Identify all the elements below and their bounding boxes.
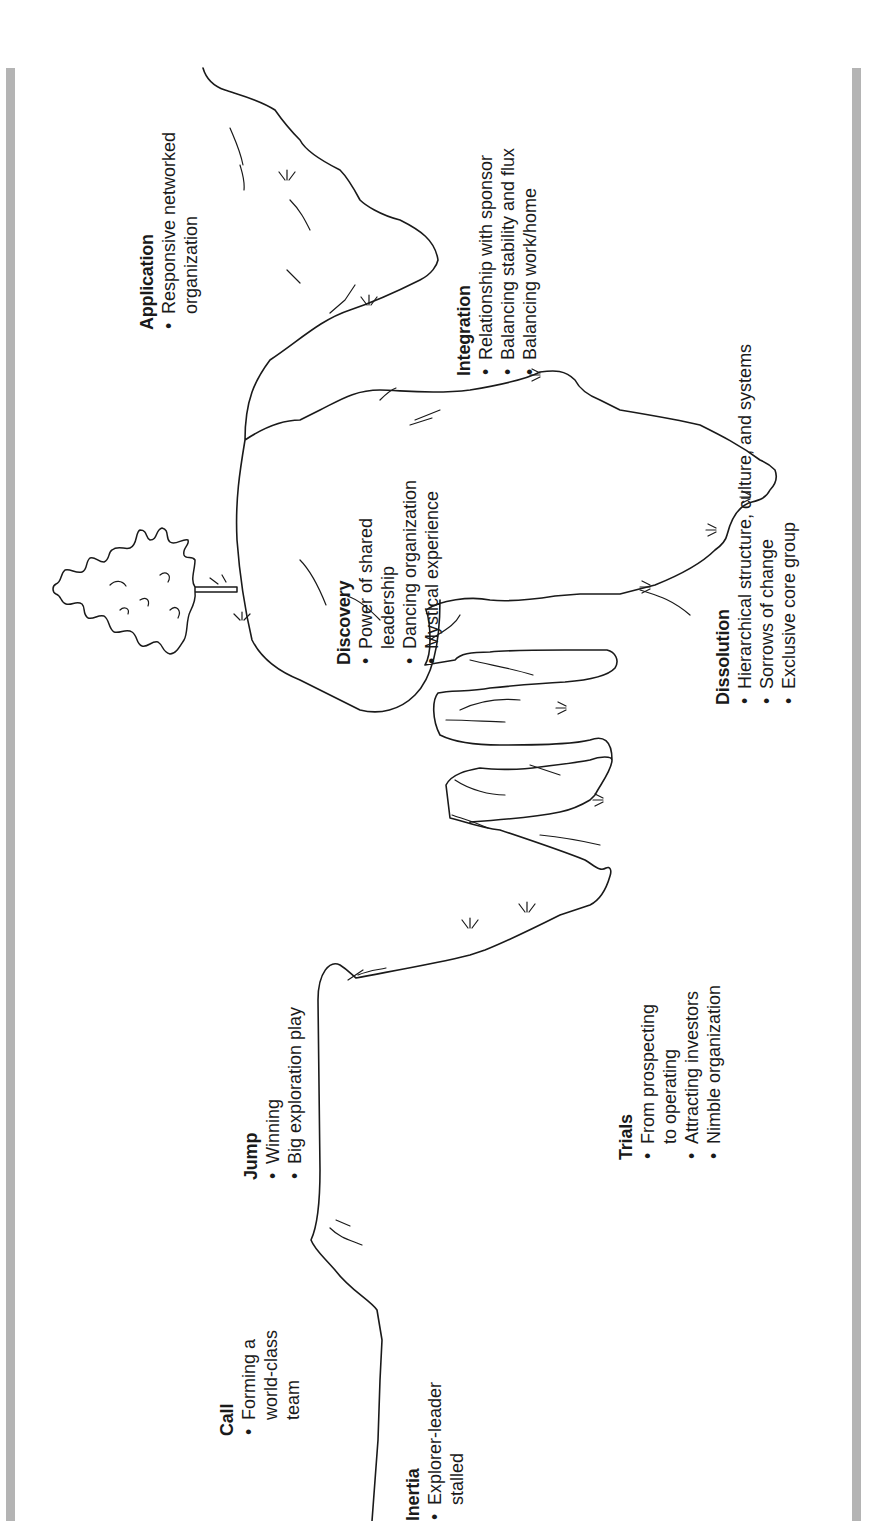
stage-bullets: Responsive networked organization <box>158 132 202 330</box>
stage-inertia: Inertia Explorer-leader stalled <box>402 1382 468 1521</box>
bullet-item: Nimble organization <box>703 985 725 1160</box>
bullet-item: Responsive networked organization <box>158 132 202 330</box>
stage-bullets: Forming a world-class team <box>238 1330 304 1436</box>
stage-title: Call <box>216 1330 238 1436</box>
stage-bullets: Power of shared leadership Dancing organ… <box>355 480 443 665</box>
bullet-item: Balancing stability and flux <box>497 148 519 376</box>
stage-discovery: Discovery Power of shared leadership Dan… <box>333 480 443 665</box>
stage-title: Discovery <box>333 480 355 665</box>
stage-bullets: Explorer-leader stalled <box>424 1382 468 1521</box>
bullet-item: Mystical experience <box>421 480 443 665</box>
bullet-item: Exclusive core group <box>778 344 800 705</box>
bullet-item: From prospecting to operating <box>637 985 681 1160</box>
bullet-item: Balancing work/home <box>519 148 541 376</box>
stage-title: Inertia <box>402 1382 424 1521</box>
stage-dissolution: Dissolution Hierarchical structure, cult… <box>712 344 800 705</box>
stage-title: Jump <box>240 1007 262 1180</box>
stage-bullets: Winning Big exploration play <box>262 1007 306 1180</box>
stage-integration: Integration Relationship with sponsor Ba… <box>453 148 541 376</box>
stage-title: Application <box>136 132 158 330</box>
stage-trials: Trials From prospecting to operating Att… <box>615 985 725 1160</box>
mountain-path-line <box>0 0 877 1521</box>
bullet-item: Forming a world-class team <box>238 1330 304 1436</box>
stage-bullets: Relationship with sponsor Balancing stab… <box>475 148 541 376</box>
stage-title: Trials <box>615 985 637 1160</box>
bullet-item: Sorrows of change <box>756 344 778 705</box>
bullet-item: Explorer-leader stalled <box>424 1382 468 1521</box>
stage-bullets: From prospecting to operating Attracting… <box>637 985 725 1160</box>
stage-jump: Jump Winning Big exploration play <box>240 1007 306 1180</box>
bullet-item: Dancing organization <box>399 480 421 665</box>
stage-call: Call Forming a world-class team <box>216 1330 304 1436</box>
bullet-item: Attracting investors <box>681 985 703 1160</box>
stage-bullets: Hierarchical structure, culture, and sys… <box>734 344 800 705</box>
stage-application: Application Responsive networked organiz… <box>136 132 202 330</box>
bullet-item: Winning <box>262 1007 284 1180</box>
stage-title: Integration <box>453 148 475 376</box>
stage-title: Dissolution <box>712 344 734 705</box>
bullet-item: Power of shared leadership <box>355 480 399 665</box>
bullet-item: Big exploration play <box>284 1007 306 1180</box>
tree-icon <box>53 528 237 654</box>
bullet-item: Hierarchical structure, culture, and sys… <box>734 344 756 705</box>
bullet-item: Relationship with sponsor <box>475 148 497 376</box>
